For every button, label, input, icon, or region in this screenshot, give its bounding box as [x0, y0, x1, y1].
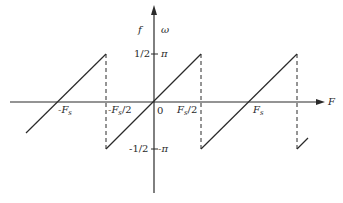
origin-label: 0 [157, 105, 163, 116]
vertical-label-omega: ω [161, 24, 169, 35]
horizontal-label-F: F [327, 96, 336, 107]
x-tick-half-fs-label: Fs/2 [176, 104, 197, 117]
sawtooth-segment-4 [297, 138, 308, 149]
y-tick-neg-half-label: -1/2 [129, 143, 148, 154]
x-tick-fs-label: Fs [252, 104, 264, 117]
y-tick-half-label: 1/2 [134, 48, 150, 59]
y-tick-neg-pi-label: -π [158, 143, 168, 154]
aliasing-diagram: f ω F 0 1/2 π -1/2 -π -Fs -Fs/2 Fs/2 Fs [0, 0, 343, 203]
vertical-axis-arrow-icon [151, 5, 157, 15]
x-tick-neg-half-fs-label: -Fs/2 [108, 104, 132, 117]
diagram-svg: f ω F 0 1/2 π -1/2 -π -Fs -Fs/2 Fs/2 Fs [0, 0, 343, 203]
horizontal-axis-arrow-icon [316, 99, 325, 105]
y-tick-pi-label: π [160, 48, 168, 59]
vertical-label-f: f [137, 24, 144, 35]
sawtooth-segment-1 [26, 54, 106, 133]
x-tick-neg-fs-label: -Fs [58, 104, 72, 117]
